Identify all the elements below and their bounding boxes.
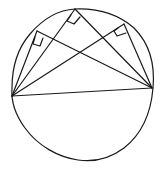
diameter-line: [12, 88, 152, 96]
chord-a-p2: [12, 9, 75, 96]
right-angle-marker-p1: [33, 37, 43, 46]
chord-b-p1: [37, 31, 152, 88]
right-angle-marker-p3: [114, 28, 126, 36]
thales-diagram: [0, 0, 163, 170]
diagram-canvas: [0, 0, 163, 170]
chord-b-p3: [124, 24, 152, 88]
circle: [12, 9, 154, 161]
